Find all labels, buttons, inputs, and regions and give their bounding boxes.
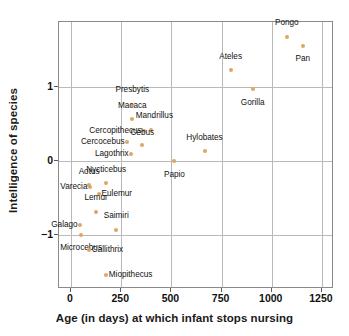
plot-area: PongoPanAtelesGorillaPresbytisMacacaMand… [58,21,333,288]
y-tick-mark [54,86,58,87]
data-point-label: Papio [164,171,185,179]
data-point [79,233,83,237]
data-point [285,35,289,39]
data-point-label: Aotus [79,168,100,176]
data-point-label: Mandrillus [136,112,173,120]
y-tick-mark [54,234,58,235]
x-tick-label: 0 [67,292,73,304]
data-point [251,87,255,91]
x-tick-mark [170,288,171,292]
data-point [78,223,82,227]
data-point [104,273,108,277]
data-point-label: Hylobates [186,134,222,142]
data-point-label: Pongo [275,19,299,27]
data-point [301,44,305,48]
x-tick-label: 1000 [259,292,282,304]
data-point-label: Galago [51,221,77,229]
y-tick-mark [54,160,58,161]
x-tick-label: 500 [162,292,180,304]
x-gridline [322,22,323,287]
y-tick-label: 0 [31,154,53,166]
y-axis-label: Intelligence of species [2,50,24,250]
data-point-label: Miopithecus [109,271,153,279]
data-point-label: Callithrix [92,245,123,253]
data-point [125,140,129,144]
y-tick-label: 1 [31,80,53,92]
x-tick-mark [221,288,222,292]
data-point [140,143,144,147]
data-point-label: Presbytis [115,86,149,94]
data-point [114,228,118,232]
data-point [203,149,207,153]
x-tick-mark [271,288,272,292]
data-point [88,185,92,189]
data-point-label: Gorilla [241,99,265,107]
data-point-label: Lemur [85,194,108,202]
x-tick-label: 750 [212,292,230,304]
data-point [129,152,133,156]
data-point-label: Cebus [130,128,154,136]
data-point-label: Cercocebus [81,138,125,146]
x-gridline [222,22,223,287]
x-tick-label: 250 [111,292,129,304]
x-tick-mark [120,288,121,292]
x-axis-label: Age (in days) at which infant stops nurs… [0,312,349,324]
data-point-label: Pan [296,55,311,63]
data-point [130,117,134,121]
data-point [87,248,91,252]
data-point-label: Lagothrix [95,150,129,158]
x-gridline [272,22,273,287]
data-point-label: Saimiri [104,212,129,220]
y-gridline [59,161,332,162]
y-tick-label: −1 [31,228,53,240]
data-point [104,181,108,185]
y-gridline [59,235,332,236]
x-tick-mark [70,288,71,292]
x-tick-label: 1250 [309,292,332,304]
data-point [229,68,233,72]
data-point [172,159,176,163]
y-gridline [59,87,332,88]
scatter-plot-figure: Intelligence of species Age (in days) at… [0,0,349,336]
data-point-label: Ateles [219,52,242,60]
data-point-label: Varecia [60,183,87,191]
data-point [94,210,98,214]
x-gridline [171,22,172,287]
data-point-label: Macaca [118,102,147,110]
x-tick-mark [321,288,322,292]
